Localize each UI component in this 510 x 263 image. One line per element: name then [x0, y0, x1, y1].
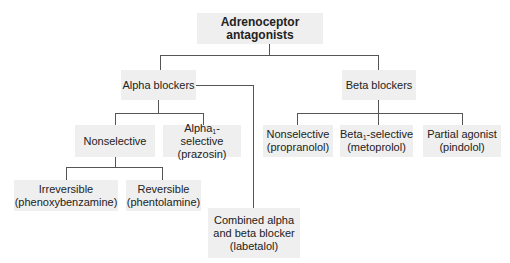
node-example: (phentolamine): [127, 196, 200, 209]
connector-alpha-down: [158, 100, 159, 113]
connector-to-beta-nonselective: [297, 113, 298, 125]
node-combined-alpha-beta: Combined alpha and beta blocker (labetal…: [208, 208, 300, 258]
connector-beta-down: [378, 100, 379, 113]
connector-alpha-to-combined-v: [253, 85, 254, 208]
connector-to-beta1: [378, 113, 379, 125]
node-example: (pindolol): [439, 141, 484, 154]
node-label: Beta blockers: [346, 79, 413, 92]
connector-alpha-children: [115, 113, 204, 114]
node-label: Adrenoceptor antagonists: [197, 16, 323, 42]
node-partial-agonist: Partial agonist (pindolol): [423, 125, 501, 157]
node-beta-nonselective: Nonselective (propranolol): [263, 125, 333, 157]
node-alpha1-selective: Alpha1-selective (prazosin): [163, 125, 241, 157]
node-label: Alpha1-selective: [163, 122, 241, 148]
node-example: (labetalol): [230, 240, 278, 253]
label-prefix: Alpha: [184, 122, 212, 134]
node-example: (prazosin): [178, 148, 227, 161]
connector-alpha-to-combined-h: [196, 85, 254, 86]
node-label-line2: and beta blocker: [213, 227, 294, 240]
node-label: Irreversible: [39, 183, 93, 196]
connector-to-alpha-nonselective: [115, 113, 116, 125]
node-label-line1: Combined alpha: [214, 214, 294, 227]
node-adrenoceptor-antagonists: Adrenoceptor antagonists: [197, 13, 323, 44]
node-beta-blockers: Beta blockers: [342, 70, 416, 100]
node-label: Nonselective: [84, 135, 147, 148]
node-alpha-blockers: Alpha blockers: [121, 70, 196, 100]
connector-beta-children: [297, 113, 463, 114]
node-alpha-nonselective: Nonselective: [75, 125, 155, 157]
connector-to-partial: [462, 113, 463, 125]
label-suffix: -selective: [367, 128, 413, 140]
connector-to-beta: [378, 55, 379, 70]
node-reversible: Reversible (phentolamine): [126, 180, 201, 211]
node-example: (phenoxybenzamine): [15, 196, 118, 209]
node-label: Beta1-selective: [340, 128, 413, 141]
node-example: (metoprolol): [347, 141, 406, 154]
node-beta1-selective: Beta1-selective (metoprolol): [340, 125, 413, 157]
connector-to-reversible: [162, 167, 163, 180]
node-label: Partial agonist: [427, 128, 497, 141]
connector-to-alpha: [160, 55, 161, 70]
node-irreversible: Irreversible (phenoxybenzamine): [14, 180, 118, 211]
node-label: Nonselective: [267, 128, 330, 141]
connector-to-irreversible: [66, 167, 67, 180]
label-prefix: Beta: [340, 128, 363, 140]
connector-nonselective-children: [66, 167, 163, 168]
node-label: Reversible: [138, 183, 190, 196]
connector-root-horizontal: [160, 55, 379, 56]
node-label: Alpha blockers: [122, 79, 194, 92]
node-example: (propranolol): [267, 141, 329, 154]
